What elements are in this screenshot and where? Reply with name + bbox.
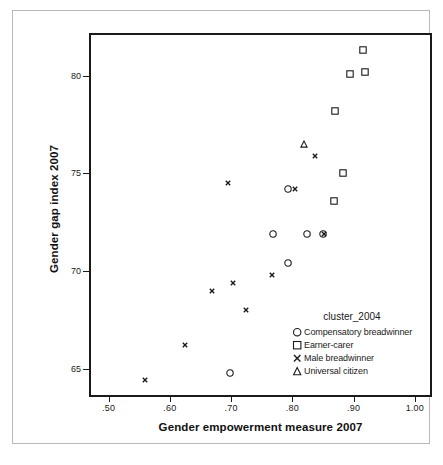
- data-point-square: [360, 67, 369, 76]
- legend-item[interactable]: Universal citizen: [291, 365, 431, 377]
- data-point-square: [358, 46, 367, 55]
- data-point-x: [311, 152, 319, 160]
- data-point-x: [223, 179, 231, 187]
- figure-outer-frame: .50.60.70.80.901.00 65707580 Gender empo…: [12, 10, 430, 444]
- legend-items: Compensatory breadwinnerEarner-carerMale…: [291, 326, 431, 377]
- y-tick-label: 70: [63, 266, 81, 276]
- data-point-circle: [283, 259, 292, 268]
- y-tick-label: 65: [63, 364, 81, 374]
- x-tick-label: .60: [163, 403, 176, 413]
- data-point-triangle: [299, 139, 308, 148]
- legend-item-label: Male breadwinner: [304, 353, 374, 363]
- triangle-icon: [291, 365, 304, 377]
- x-tick-label: .50: [102, 403, 115, 413]
- x-axis-title: Gender empowerment measure 2007: [89, 421, 432, 433]
- data-point-x: [207, 286, 215, 294]
- legend-item[interactable]: Male breadwinner: [291, 352, 431, 364]
- data-point-circle: [225, 368, 234, 377]
- data-point-circle: [268, 229, 277, 238]
- square-icon: [291, 339, 304, 351]
- legend-item-label: Universal citizen: [304, 366, 368, 376]
- x-tick-label: .80: [286, 403, 299, 413]
- data-point-square: [329, 196, 338, 205]
- circle-icon: [291, 326, 304, 338]
- data-point-x: [320, 230, 328, 238]
- legend: cluster_2004 Compensatory breadwinnerEar…: [291, 311, 431, 378]
- data-point-x: [268, 271, 276, 279]
- legend-title: cluster_2004: [291, 311, 431, 322]
- data-point-square: [330, 106, 339, 115]
- data-point-x: [229, 279, 237, 287]
- data-point-x: [242, 306, 250, 314]
- y-tick-label: 75: [63, 168, 81, 178]
- x-tick-label: 1.00: [406, 403, 424, 413]
- legend-item[interactable]: Compensatory breadwinner: [291, 326, 431, 338]
- x-tick-label: .90: [347, 403, 360, 413]
- data-point-square: [345, 69, 354, 78]
- data-point-x: [141, 376, 149, 384]
- data-point-x: [181, 341, 189, 349]
- data-point-square: [338, 169, 347, 178]
- y-tick-label: 80: [63, 71, 81, 81]
- legend-item[interactable]: Earner-carer: [291, 339, 431, 351]
- x-tick-label: .70: [225, 403, 238, 413]
- legend-item-label: Compensatory breadwinner: [304, 327, 412, 337]
- legend-item-label: Earner-carer: [304, 340, 353, 350]
- scatter-plot-figure: .50.60.70.80.901.00 65707580 Gender empo…: [0, 0, 443, 465]
- data-point-x: [291, 185, 299, 193]
- data-point-circle: [302, 229, 311, 238]
- x-icon: [291, 352, 304, 364]
- y-axis-title: Gender gap index 2007: [48, 94, 60, 324]
